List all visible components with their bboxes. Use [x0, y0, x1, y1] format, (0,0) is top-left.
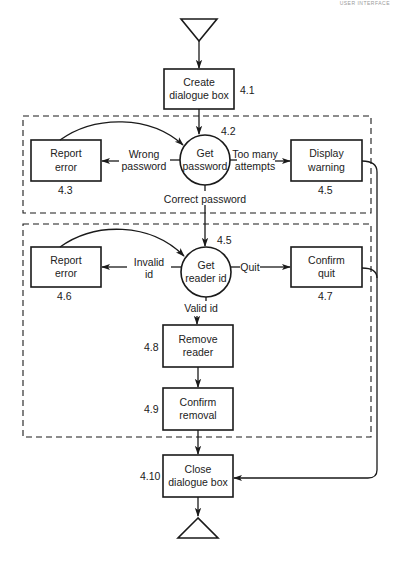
label-line: Remove [178, 333, 217, 347]
node-confirm-removal-label: Confirmremoval [163, 388, 233, 430]
end-terminal [178, 518, 218, 538]
label-line: quit [308, 267, 345, 281]
label-line: Invalid [127, 256, 171, 268]
label-line: Get [185, 259, 226, 273]
label-line: Too many [230, 148, 280, 160]
label-line: Close [168, 463, 228, 477]
node-create-dialogue-box-label: Createdialogue box [164, 69, 234, 109]
node-id-4-3: 4.3 [58, 184, 73, 196]
node-confirm-quit-label: Confirmquit [291, 247, 362, 287]
node-id-4-9: 4.9 [144, 403, 159, 415]
edge-invalid-id-label: Invalidid [127, 256, 171, 280]
node-close-dialogue-box-label: Closedialogue box [163, 455, 233, 497]
label-line: Create [169, 76, 229, 90]
connector-warning-to-close [234, 161, 377, 478]
label-line: Display [308, 147, 345, 161]
label-line: Wrong [118, 148, 170, 160]
node-id-4-7: 4.7 [318, 290, 333, 302]
label-line: id [127, 268, 171, 280]
label-line: Confirm [179, 396, 216, 410]
node-id-4-10: 4.10 [140, 470, 160, 482]
node-get-password-label: Getpassword [180, 135, 230, 185]
node-id-4-2: 4.2 [221, 125, 236, 137]
label-line: password [118, 160, 170, 172]
label-line: warning [308, 161, 345, 175]
connector-quit-to-close [362, 268, 377, 278]
start-terminal [181, 19, 217, 41]
node-id-4-8: 4.8 [144, 341, 159, 353]
label-line: password [183, 160, 228, 174]
label-line: Confirm [308, 254, 345, 268]
node-id-4-5b: 4.5 [217, 234, 232, 246]
label-line: error [50, 161, 82, 175]
node-report-error-4-6-label: Reporterror [31, 247, 101, 287]
node-id-4-1: 4.1 [240, 84, 255, 96]
edge-wrong-password-label: Wrongpassword [118, 148, 170, 172]
label-line: error [50, 267, 82, 281]
label-line: Report [50, 147, 82, 161]
edge-too-many-attempts-label: Too manyattempts [230, 148, 280, 172]
node-report-error-4-3-label: Reporterror [31, 140, 101, 181]
label-line: dialogue box [168, 476, 228, 490]
node-remove-reader-label: Removereader [163, 325, 233, 367]
edge-quit-label: Quit [238, 261, 262, 273]
label-line: removal [179, 409, 216, 423]
edge-correct-password-label: Correct password [155, 193, 255, 205]
label-line: dialogue box [169, 89, 229, 103]
node-display-warning-label: Displaywarning [291, 140, 362, 181]
label-line: Report [50, 254, 82, 268]
node-get-reader-id-label: Getreader id [181, 247, 231, 297]
label-line: Get [183, 147, 228, 161]
label-line: reader id [185, 272, 226, 286]
label-line: reader [178, 346, 217, 360]
edge-valid-id-label: Valid id [176, 302, 226, 314]
node-id-4-6: 4.6 [57, 290, 72, 302]
node-id-4-5a: 4.5 [318, 184, 333, 196]
label-line: attempts [230, 160, 280, 172]
